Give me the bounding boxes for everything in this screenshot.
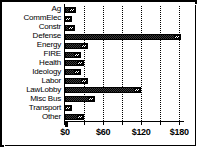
bar (65, 43, 88, 49)
category-label: Labor (2, 76, 63, 85)
bar-row (65, 41, 183, 50)
bar-row (65, 24, 183, 33)
category-label: CommElec (2, 13, 63, 22)
tick-mark (141, 121, 142, 125)
bar-end-marker (134, 88, 140, 92)
bar-row (65, 50, 183, 59)
bar-row (65, 112, 183, 121)
category-label: Energy (2, 40, 63, 49)
bar (65, 60, 84, 66)
tick-mark (103, 121, 104, 125)
bar (65, 114, 84, 120)
tick-label: $120 (132, 127, 151, 137)
bar (65, 16, 72, 22)
bar (65, 52, 81, 58)
category-label: FIRE (2, 49, 63, 58)
bar (65, 69, 81, 75)
tick-label: $180 (170, 127, 189, 137)
bar-end-marker (77, 115, 83, 119)
tick-label: $60 (96, 127, 110, 137)
bar-series (65, 6, 183, 121)
category-label: Health (2, 58, 63, 67)
value-axis-tick-labels: $0$60$120$180 (2, 127, 197, 141)
category-label: Other (2, 112, 63, 121)
bar (65, 78, 88, 84)
bar-row (65, 33, 183, 42)
tick-label: $0 (60, 127, 69, 137)
bar-end-marker (65, 17, 71, 21)
bar-end-marker (65, 106, 71, 110)
tick-mark (122, 121, 123, 125)
category-label: Ideology (2, 67, 63, 76)
category-label: Constr (2, 22, 63, 31)
category-label: Defense (2, 31, 63, 40)
bar-end-marker (74, 70, 80, 74)
bar-row (65, 103, 183, 112)
bar-row (65, 86, 183, 95)
bar-end-marker (81, 79, 87, 83)
bar-row (65, 94, 183, 103)
category-axis-labels: AgCommElecConstrDefenseEnergyFIREHealthI… (2, 4, 63, 121)
bar-end-marker (69, 8, 75, 12)
bar (65, 34, 181, 40)
tick-mark (179, 121, 180, 125)
bar-row (65, 59, 183, 68)
bar-end-marker (88, 97, 94, 101)
bar (65, 7, 76, 13)
bar-row (65, 6, 183, 15)
category-label: Misc Bus (2, 94, 63, 103)
plot-area (65, 6, 183, 121)
bar (65, 87, 141, 93)
bar-row (65, 77, 183, 86)
bar-end-marker (81, 44, 87, 48)
bar-end-marker (77, 61, 83, 65)
category-label: Ag (2, 4, 63, 13)
value-axis-baseline (64, 121, 184, 122)
bar (65, 25, 75, 31)
bar-end-marker (68, 26, 74, 30)
bar (65, 96, 95, 102)
bar-end-marker (74, 53, 80, 57)
bar-row (65, 15, 183, 24)
tick-mark (160, 121, 161, 125)
category-label: LawLobby (2, 85, 63, 94)
bar-row (65, 68, 183, 77)
category-label: Transport (2, 103, 63, 112)
bar (65, 105, 72, 111)
chart-frame: AgCommElecConstrDefenseEnergyFIREHealthI… (0, 0, 197, 147)
tick-mark (84, 121, 85, 125)
bar-end-marker (174, 35, 180, 39)
